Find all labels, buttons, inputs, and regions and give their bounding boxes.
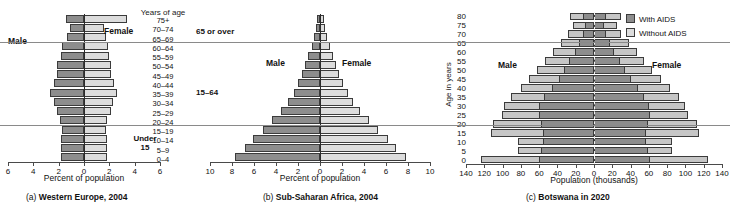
male-side bbox=[34, 135, 84, 143]
male-side bbox=[470, 147, 594, 155]
x-tick bbox=[594, 164, 595, 168]
male-side bbox=[214, 89, 320, 97]
y-tick-label: 15 bbox=[442, 128, 466, 137]
female-side bbox=[84, 89, 134, 97]
male-side bbox=[470, 102, 594, 110]
bar-female bbox=[320, 116, 369, 124]
x-tick bbox=[210, 162, 211, 166]
caption-text-a: Western Europe, 2004 bbox=[39, 192, 128, 202]
bar-male bbox=[57, 107, 85, 115]
caption-b: (b) Sub-Saharan Africa, 2004 bbox=[263, 192, 378, 202]
bar-male bbox=[298, 79, 320, 87]
group-label-65-or-over: 65 or over bbox=[196, 27, 234, 36]
y-tick-label: 60 bbox=[442, 48, 466, 57]
x-tick-label: 60 bbox=[644, 169, 653, 178]
bar-male bbox=[235, 153, 320, 161]
center-axis-b bbox=[320, 14, 321, 162]
x-tick bbox=[276, 162, 277, 166]
x-tick bbox=[430, 162, 431, 166]
bar-female-with-aids bbox=[594, 30, 606, 38]
x-tick bbox=[685, 164, 686, 168]
female-label-b: Female bbox=[342, 58, 371, 68]
bar-male bbox=[60, 116, 84, 124]
legend-label: Without AIDS bbox=[639, 29, 687, 38]
female-side bbox=[84, 153, 134, 161]
x-tick bbox=[722, 164, 723, 168]
female-side bbox=[320, 98, 426, 106]
bar-male bbox=[57, 61, 84, 69]
age-category-label: 25–29 bbox=[146, 110, 180, 118]
female-side bbox=[594, 147, 718, 155]
female-side bbox=[594, 48, 718, 56]
bar-female bbox=[320, 135, 388, 143]
female-side bbox=[320, 79, 426, 87]
female-side bbox=[320, 70, 426, 78]
bar-male bbox=[57, 70, 84, 78]
bar-female-with-aids bbox=[594, 120, 648, 128]
group-label-under-15-line2: 15 bbox=[127, 143, 163, 152]
population-pyramid-figure: 6420246 Percent of population Years of a… bbox=[0, 0, 730, 209]
male-side bbox=[470, 13, 594, 21]
female-side bbox=[84, 79, 134, 87]
bar-female bbox=[84, 61, 111, 69]
male-side bbox=[470, 30, 594, 38]
y-tick-label: 80 bbox=[442, 12, 466, 21]
y-tick-label: 75 bbox=[442, 21, 466, 30]
x-axis-title-c: Population (thousands) bbox=[550, 175, 637, 185]
x-tick bbox=[612, 164, 613, 168]
bar-male bbox=[245, 144, 320, 152]
female-side bbox=[84, 116, 134, 124]
female-side bbox=[594, 120, 718, 128]
bar-male bbox=[62, 42, 84, 50]
male-side bbox=[34, 116, 84, 124]
x-tick-label: 140 bbox=[459, 169, 472, 178]
female-side bbox=[320, 89, 426, 97]
bar-male bbox=[67, 33, 84, 41]
age-group-divider-65plus bbox=[0, 42, 730, 43]
bar-female bbox=[84, 98, 113, 106]
male-side bbox=[34, 70, 84, 78]
bar-male bbox=[312, 42, 320, 50]
y-tick-label: 20 bbox=[442, 119, 466, 128]
x-tick bbox=[364, 162, 365, 166]
female-side bbox=[320, 42, 426, 50]
female-side bbox=[320, 126, 426, 134]
x-tick bbox=[298, 162, 299, 166]
bar-female bbox=[320, 144, 396, 152]
male-side bbox=[470, 120, 594, 128]
bar-female bbox=[84, 70, 111, 78]
female-side bbox=[320, 52, 426, 60]
legend-item[interactable]: With AIDS bbox=[626, 14, 687, 25]
y-tick-label: 5 bbox=[442, 146, 466, 155]
bar-female-with-aids bbox=[594, 57, 620, 65]
x-tick bbox=[521, 164, 522, 168]
x-tick bbox=[320, 162, 321, 166]
male-side bbox=[34, 126, 84, 134]
legend-item[interactable]: Without AIDS bbox=[626, 28, 687, 39]
bar-male-with-aids bbox=[585, 22, 594, 30]
x-tick bbox=[84, 162, 85, 166]
pyramid-plot-a bbox=[34, 14, 134, 162]
male-side bbox=[470, 57, 594, 65]
male-label-b: Male bbox=[266, 58, 285, 68]
age-category-label: 50–54 bbox=[146, 63, 180, 71]
bar-female bbox=[84, 144, 107, 152]
bar-female bbox=[84, 42, 108, 50]
bar-female bbox=[320, 70, 339, 78]
x-tick-label: 8 bbox=[230, 167, 234, 176]
age-category-label: 75+ bbox=[146, 17, 180, 25]
bar-female-with-aids bbox=[594, 13, 606, 21]
chart-panel-botswana: 14012010080604020020406080100120140 Popu… bbox=[440, 0, 730, 209]
bar-male bbox=[62, 126, 85, 134]
caption-prefix-b: (b) bbox=[263, 192, 273, 202]
bar-female bbox=[320, 33, 327, 41]
bar-male bbox=[272, 116, 320, 124]
x-tick-label: 8 bbox=[406, 167, 410, 176]
male-side bbox=[34, 107, 84, 115]
bar-male bbox=[281, 107, 320, 115]
male-side bbox=[214, 79, 320, 87]
male-side bbox=[34, 33, 84, 41]
legend-label: With AIDS bbox=[639, 15, 675, 24]
male-side bbox=[470, 129, 594, 137]
male-side bbox=[34, 153, 84, 161]
